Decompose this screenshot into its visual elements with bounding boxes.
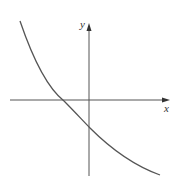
graph: x y	[0, 0, 180, 186]
y-axis-arrow-icon	[87, 23, 92, 31]
function-curve	[20, 21, 160, 175]
y-axis-label: y	[79, 18, 85, 30]
x-axis-label: x	[163, 102, 169, 114]
